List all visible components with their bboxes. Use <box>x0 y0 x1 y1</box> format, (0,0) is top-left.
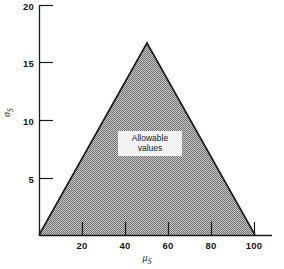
y-axis-title-symbol: σ <box>1 112 12 117</box>
y-tick-label-10: 10 <box>10 116 34 127</box>
y-tick-label-5: 5 <box>10 174 34 185</box>
annotation-line-1: Allowable <box>132 133 168 143</box>
x-tick-label-100: 100 <box>246 240 262 251</box>
x-tick-label-20: 20 <box>77 240 88 251</box>
y-tick-label-15: 15 <box>10 58 34 69</box>
annotation-line-2: values <box>121 143 179 153</box>
y-tick-label-20: 20 <box>10 1 34 12</box>
x-axis-title-subscript: S <box>148 257 152 266</box>
y-axis-title-subscript: S <box>6 108 15 112</box>
allowable-values-annotation: Allowablevalues <box>118 131 182 156</box>
y-axis-title: σS <box>1 108 15 117</box>
x-tick-label-60: 60 <box>163 240 174 251</box>
x-tick-label-80: 80 <box>206 240 217 251</box>
chart-figure: 20 15 10 5 20 40 60 80 100 σS μS Allowab… <box>0 0 284 269</box>
x-tick-label-40: 40 <box>120 240 131 251</box>
x-axis-title: μS <box>143 252 152 266</box>
